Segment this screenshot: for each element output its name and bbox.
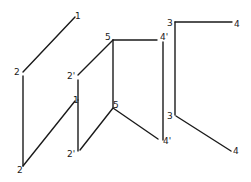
point-label-bot-5: 5 bbox=[113, 100, 119, 110]
diagram-edges bbox=[23, 17, 232, 166]
point-label-top-3: 3 bbox=[167, 18, 173, 28]
edge-bot-5-4p bbox=[113, 108, 158, 139]
edge-bot-5-2p bbox=[80, 108, 113, 150]
point-label-bot-2: 2 bbox=[17, 165, 23, 175]
projection-diagram: 122'54'34122'534'4 bbox=[0, 0, 251, 182]
point-label-bot-4: 4 bbox=[233, 146, 239, 156]
edge-bot-3-4 bbox=[176, 116, 231, 151]
point-label-top-2p: 2' bbox=[67, 71, 75, 81]
point-label-bot-4p: 4' bbox=[163, 136, 171, 146]
point-label-bot-1: 1 bbox=[73, 95, 79, 105]
edge-top-2p-5 bbox=[78, 40, 113, 75]
point-label-top-4p: 4' bbox=[160, 32, 168, 42]
diagram-labels: 122'54'34122'534'4 bbox=[14, 11, 240, 175]
point-label-top-4: 4 bbox=[234, 19, 240, 29]
point-label-top-5: 5 bbox=[105, 32, 111, 42]
point-label-bot-2p: 2' bbox=[67, 149, 75, 159]
point-label-bot-3: 3 bbox=[167, 111, 173, 121]
point-label-top-1: 1 bbox=[75, 11, 81, 21]
point-label-top-2: 2 bbox=[14, 67, 20, 77]
edge-top-1-2 bbox=[23, 17, 75, 72]
